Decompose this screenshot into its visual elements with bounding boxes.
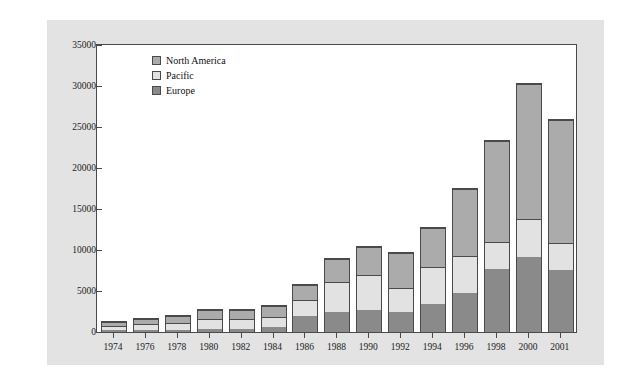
bar-segment-europe[interactable] xyxy=(485,269,509,332)
bar-group[interactable] xyxy=(101,45,125,332)
bar-group[interactable] xyxy=(388,45,412,332)
x-axis-tick-mark xyxy=(177,333,178,338)
bar-segment-europe[interactable] xyxy=(517,257,541,332)
x-axis-tick-label: 1986 xyxy=(295,342,314,352)
x-axis-cell: 1982 xyxy=(229,333,253,363)
x-axis: 1974197619781980198219841986198819901992… xyxy=(97,333,576,363)
x-axis-tick-label: 1996 xyxy=(455,342,474,352)
bar-segment-pacific[interactable] xyxy=(325,282,349,312)
bar-segment-europe[interactable] xyxy=(102,330,126,332)
y-axis: Billions of U.S. dollars 050001000015000… xyxy=(0,44,96,333)
bar-segment-northamerica[interactable] xyxy=(262,306,286,317)
x-axis-tick-label: 2001 xyxy=(550,342,569,352)
bar-segment-pacific[interactable] xyxy=(485,242,509,268)
bar-segment-europe[interactable] xyxy=(549,270,573,332)
legend-item-pacific[interactable]: Pacific xyxy=(152,69,226,82)
x-axis-tick-mark xyxy=(209,333,210,338)
x-axis-cell: 1986 xyxy=(292,333,316,363)
legend-label: North America xyxy=(166,55,226,66)
x-axis-tick-mark xyxy=(464,333,465,338)
stacked-bar[interactable] xyxy=(548,119,574,332)
x-axis-tick-mark xyxy=(432,333,433,338)
stacked-bar[interactable] xyxy=(356,246,382,332)
bar-segment-pacific[interactable] xyxy=(198,319,222,329)
bar-group[interactable] xyxy=(324,45,348,332)
bar-segment-europe[interactable] xyxy=(262,327,286,332)
bar-segment-pacific[interactable] xyxy=(453,256,477,292)
x-axis-tick-label: 1984 xyxy=(263,342,282,352)
stacked-bar[interactable] xyxy=(165,315,191,332)
stacked-bar[interactable] xyxy=(292,284,318,332)
bar-group[interactable] xyxy=(420,45,444,332)
x-axis-tick-label: 1978 xyxy=(167,342,186,352)
stacked-bar[interactable] xyxy=(229,309,255,332)
x-axis-cell: 1998 xyxy=(484,333,508,363)
stacked-bar[interactable] xyxy=(133,318,159,332)
bar-group[interactable] xyxy=(516,45,540,332)
stacked-bar[interactable] xyxy=(484,140,510,332)
bar-segment-pacific[interactable] xyxy=(357,275,381,310)
legend-label: Pacific xyxy=(166,70,194,81)
legend-item-northamerica[interactable]: North America xyxy=(152,54,226,67)
x-axis-tick-mark xyxy=(273,333,274,338)
stacked-bar[interactable] xyxy=(452,188,478,332)
bar-group[interactable] xyxy=(292,45,316,332)
bar-segment-northamerica[interactable] xyxy=(230,310,254,318)
bar-segment-northamerica[interactable] xyxy=(293,285,317,300)
stacked-bar[interactable] xyxy=(420,227,446,332)
x-axis-tick-label: 1982 xyxy=(231,342,250,352)
bar-segment-europe[interactable] xyxy=(325,312,349,333)
stacked-bar[interactable] xyxy=(324,258,350,332)
bar-group[interactable] xyxy=(356,45,380,332)
bar-segment-northamerica[interactable] xyxy=(389,253,413,288)
bar-segment-northamerica[interactable] xyxy=(517,84,541,219)
bar-group[interactable] xyxy=(484,45,508,332)
bar-segment-europe[interactable] xyxy=(230,329,254,332)
bar-segment-europe[interactable] xyxy=(453,293,477,332)
bar-segment-pacific[interactable] xyxy=(166,323,190,330)
bar-segment-europe[interactable] xyxy=(357,310,381,332)
stacked-bar[interactable] xyxy=(197,309,223,332)
x-axis-cell: 2000 xyxy=(516,333,540,363)
stacked-bar[interactable] xyxy=(101,321,127,332)
bar-segment-europe[interactable] xyxy=(166,330,190,332)
x-axis-tick-mark xyxy=(400,333,401,338)
y-axis-tick-label: 0 xyxy=(50,327,96,337)
bar-segment-pacific[interactable] xyxy=(230,319,254,329)
bar-segment-pacific[interactable] xyxy=(421,267,445,304)
bar-segment-northamerica[interactable] xyxy=(549,120,573,243)
bar-segment-europe[interactable] xyxy=(421,304,445,332)
y-axis-tick-label: 5000 xyxy=(50,286,96,296)
bar-segment-northamerica[interactable] xyxy=(357,247,381,275)
bar-segment-europe[interactable] xyxy=(293,316,317,332)
bar-segment-northamerica[interactable] xyxy=(198,310,222,318)
stacked-bar[interactable] xyxy=(388,252,414,332)
stacked-bar[interactable] xyxy=(516,83,542,332)
bar-segment-europe[interactable] xyxy=(389,312,413,333)
bar-segment-northamerica[interactable] xyxy=(421,228,445,268)
bar-segment-europe[interactable] xyxy=(134,330,158,332)
bar-segment-europe[interactable] xyxy=(198,329,222,332)
bar-segment-northamerica[interactable] xyxy=(485,141,509,242)
bar-segment-pacific[interactable] xyxy=(517,219,541,257)
x-axis-tick-label: 1998 xyxy=(487,342,506,352)
bar-segment-pacific[interactable] xyxy=(293,300,317,317)
x-axis-tick-mark xyxy=(113,333,114,338)
chart-page: Billions of U.S. dollars 050001000015000… xyxy=(0,0,638,382)
bar-segment-pacific[interactable] xyxy=(389,288,413,311)
stacked-bar[interactable] xyxy=(261,305,287,332)
x-axis-cell: 1976 xyxy=(133,333,157,363)
bar-group[interactable] xyxy=(229,45,253,332)
x-axis-tick-mark xyxy=(304,333,305,338)
bar-group[interactable] xyxy=(452,45,476,332)
bar-segment-northamerica[interactable] xyxy=(453,189,477,256)
x-axis-cell: 1978 xyxy=(165,333,189,363)
legend-item-europe[interactable]: Europe xyxy=(152,84,226,97)
bar-group[interactable] xyxy=(548,45,572,332)
bar-segment-pacific[interactable] xyxy=(549,243,573,269)
bar-group[interactable] xyxy=(261,45,285,332)
bar-segment-northamerica[interactable] xyxy=(325,259,349,282)
bar-segment-pacific[interactable] xyxy=(262,317,286,327)
bar-segment-northamerica[interactable] xyxy=(166,316,190,323)
x-axis-tick-label: 1992 xyxy=(391,342,410,352)
